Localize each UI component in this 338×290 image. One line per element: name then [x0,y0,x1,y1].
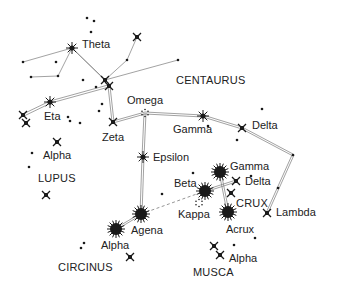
star-eta-left-b-icon [22,119,30,127]
star-circinus-x-icon [126,253,134,261]
label-alpha-lupus: Alpha [43,149,72,161]
star-gamma-crux-icon [211,163,229,181]
label-theta: Theta [82,38,111,50]
star-crux-inner-icon [227,189,235,197]
dim-star-icon [79,122,82,125]
star-eta-icon [44,96,56,108]
label-delta-crux: Delta [245,175,272,187]
star-map-svg: ThetaOmegaZetaEtaAlphaGammaDeltaEpsilonL… [0,0,338,290]
dim-star-icon [90,31,93,34]
dim-star-icon [101,103,104,106]
dim-star-icon [80,247,83,250]
label-kappa: Kappa [178,208,211,220]
label-omega: Omega [127,94,164,106]
dim-star-icon [69,120,72,123]
dim-star-icon [277,187,280,190]
star-lupus-x-icon [42,191,50,199]
star-chart: ThetaOmegaZetaEtaAlphaGammaDeltaEpsilonL… [0,0,338,290]
star-alpha-cen-icon [107,220,125,238]
star-agena-icon [132,205,150,223]
star-alpha-lupus-icon [53,138,61,146]
label-epsilon: Epsilon [153,151,189,163]
dim-star-icon [55,61,58,64]
dim-star-icon [67,116,70,119]
label-zeta: Zeta [102,131,125,143]
star-kappa-icon [195,199,203,208]
dim-star-icon [236,139,239,142]
dim-star-icon [254,237,257,240]
dim-star-icon [57,75,60,78]
label-beta-crux: Beta [174,177,198,189]
dim-star-icon [126,59,129,62]
label-delta-cen: Delta [252,119,279,131]
label-agena: Agena [131,224,164,236]
star-musca-a-icon [210,242,218,250]
dim-star-icon [82,79,85,82]
constellation-musca: MUSCA [193,266,234,278]
star-labels: ThetaOmegaZetaEtaAlphaGammaDeltaEpsilonL… [43,38,317,264]
dim-star-icon [292,154,295,157]
dim-star-icon [192,172,195,175]
dim-star-icon [95,86,98,89]
dim-star-icon [233,244,236,247]
label-lambda: Lambda [276,206,317,218]
dim-star-icon [22,61,25,64]
dim-star-icon [261,108,264,111]
constellation-lupus: LUPUS [38,172,76,184]
dim-star-icon [98,110,101,113]
dim-star-icon [28,166,31,169]
star-top-right-icon [133,33,141,41]
label-gamma-cen: Gamma [173,123,213,135]
star-gamma-cen-icon [197,110,209,122]
constellation-circinus: CIRCINUS [58,261,113,273]
label-gamma-crux: Gamma [230,160,270,172]
star-theta-icon [66,42,78,54]
dim-star-icon [31,152,34,155]
dim-star-icon [93,20,96,23]
dim-star-icon [30,76,33,79]
dim-star-icon [161,193,164,196]
constellation-centaurus: CENTAURUS [176,74,245,86]
label-alpha-cen: Alpha [101,239,130,251]
constellation-crux: CRUX [236,197,268,209]
star-beta-crux-icon [196,182,214,200]
dim-star-icon [83,242,86,245]
star-musca-alpha-icon [216,251,224,259]
label-acrux: Acrux [226,223,255,235]
dim-star-icon [177,59,180,62]
label-musca-alpha: Alpha [229,252,258,264]
label-eta: Eta [44,110,61,122]
star-acrux-icon [219,203,237,221]
star-epsilon-icon [137,151,149,163]
dim-star-icon [86,17,89,20]
